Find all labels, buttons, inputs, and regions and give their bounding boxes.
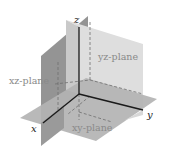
yz-plane-label: yz-plane [97, 51, 138, 62]
coordinate-planes-diagram: z y x yz-plane xz-plane xy-plane [0, 0, 169, 154]
xy-plane-label: xy-plane [72, 122, 113, 133]
y-axis-label: y [146, 109, 153, 120]
z-axis-label: z [73, 14, 80, 25]
xz-plane-label: xz-plane [9, 75, 49, 86]
x-axis-label: x [31, 123, 37, 134]
